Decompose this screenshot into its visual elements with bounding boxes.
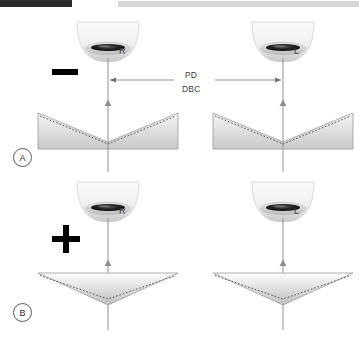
axis-marker-left-a — [280, 100, 287, 107]
pupil-highlight — [273, 205, 285, 207]
panel-a-eye-right — [77, 22, 139, 62]
pd-label: PD — [185, 70, 197, 80]
diagram-svg — [0, 0, 359, 341]
top-dark-bar — [0, 0, 72, 7]
top-gray-bar — [118, 1, 359, 7]
plus-sign-panel-b-vertical — [63, 225, 69, 253]
pupil-highlight — [273, 45, 285, 47]
eye-label-left-b: L — [294, 206, 299, 216]
panel-a-eye-left — [252, 22, 314, 62]
eye-label-right-a: R — [119, 46, 126, 56]
axis-marker-right-b — [105, 260, 112, 267]
pupil-highlight — [98, 205, 110, 207]
panel-letter-b: B — [13, 303, 32, 322]
axis-marker-right-a — [105, 100, 112, 107]
plus-lens-triangle — [38, 273, 178, 305]
panel-b-eye-right — [77, 182, 139, 222]
eye-label-right-b: R — [119, 206, 126, 216]
pupil-highlight — [98, 45, 110, 47]
minus-lens-half-outer — [38, 113, 108, 149]
panel-a — [38, 22, 353, 172]
minus-lens-half-inner — [108, 113, 178, 149]
figure-canvas: R L PD DBC R L A B — [0, 0, 359, 341]
panel-b-lens-right — [38, 273, 178, 305]
dbc-label: DBC — [182, 84, 201, 94]
panel-letter-a: A — [13, 148, 32, 167]
axis-marker-left-b — [280, 260, 287, 267]
panel-b-eye-left — [252, 182, 314, 222]
eye-label-left-a: L — [294, 46, 299, 56]
panel-b — [38, 182, 353, 330]
minus-sign-panel-a — [52, 69, 78, 75]
plus-lens-triangle — [213, 273, 353, 305]
panel-b-lens-left — [213, 273, 353, 305]
minus-lens-half-outer — [213, 113, 283, 149]
minus-lens-half-inner — [283, 113, 353, 149]
